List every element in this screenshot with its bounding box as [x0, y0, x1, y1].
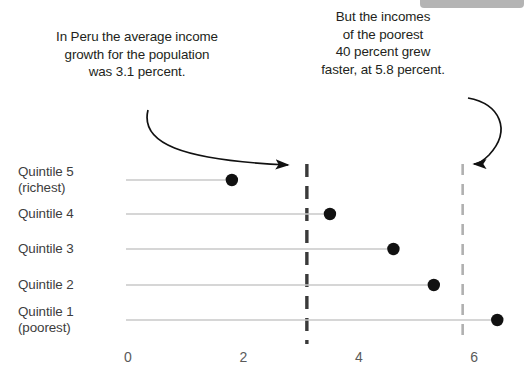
data-point[interactable] — [324, 208, 336, 220]
arrow-left-to-average-line — [147, 110, 288, 165]
category-label: Quintile 5 (richest) — [18, 164, 74, 196]
x-tick-label: 6 — [459, 349, 489, 365]
x-tick-label: 0 — [113, 349, 143, 365]
data-point[interactable] — [226, 174, 238, 186]
x-tick-label: 2 — [228, 349, 258, 365]
arrow-right-to-bottom40-line — [468, 98, 501, 164]
category-label: Quintile 1 (poorest) — [18, 304, 74, 336]
chart-figure: In Peru the average income growth for th… — [0, 0, 526, 383]
category-label: Quintile 4 — [18, 206, 74, 222]
category-label: Quintile 3 — [18, 241, 74, 257]
x-tick-label: 4 — [344, 349, 374, 365]
annotation-right-poorest-40: But the incomes of the poorest 40 percen… — [277, 8, 489, 78]
data-point[interactable] — [387, 243, 399, 255]
category-label: Quintile 2 — [18, 277, 74, 293]
annotation-left-average-income: In Peru the average income growth for th… — [12, 28, 262, 81]
data-point[interactable] — [491, 314, 503, 326]
cropped-watermark-bar — [420, 0, 524, 8]
data-point[interactable] — [428, 279, 440, 291]
